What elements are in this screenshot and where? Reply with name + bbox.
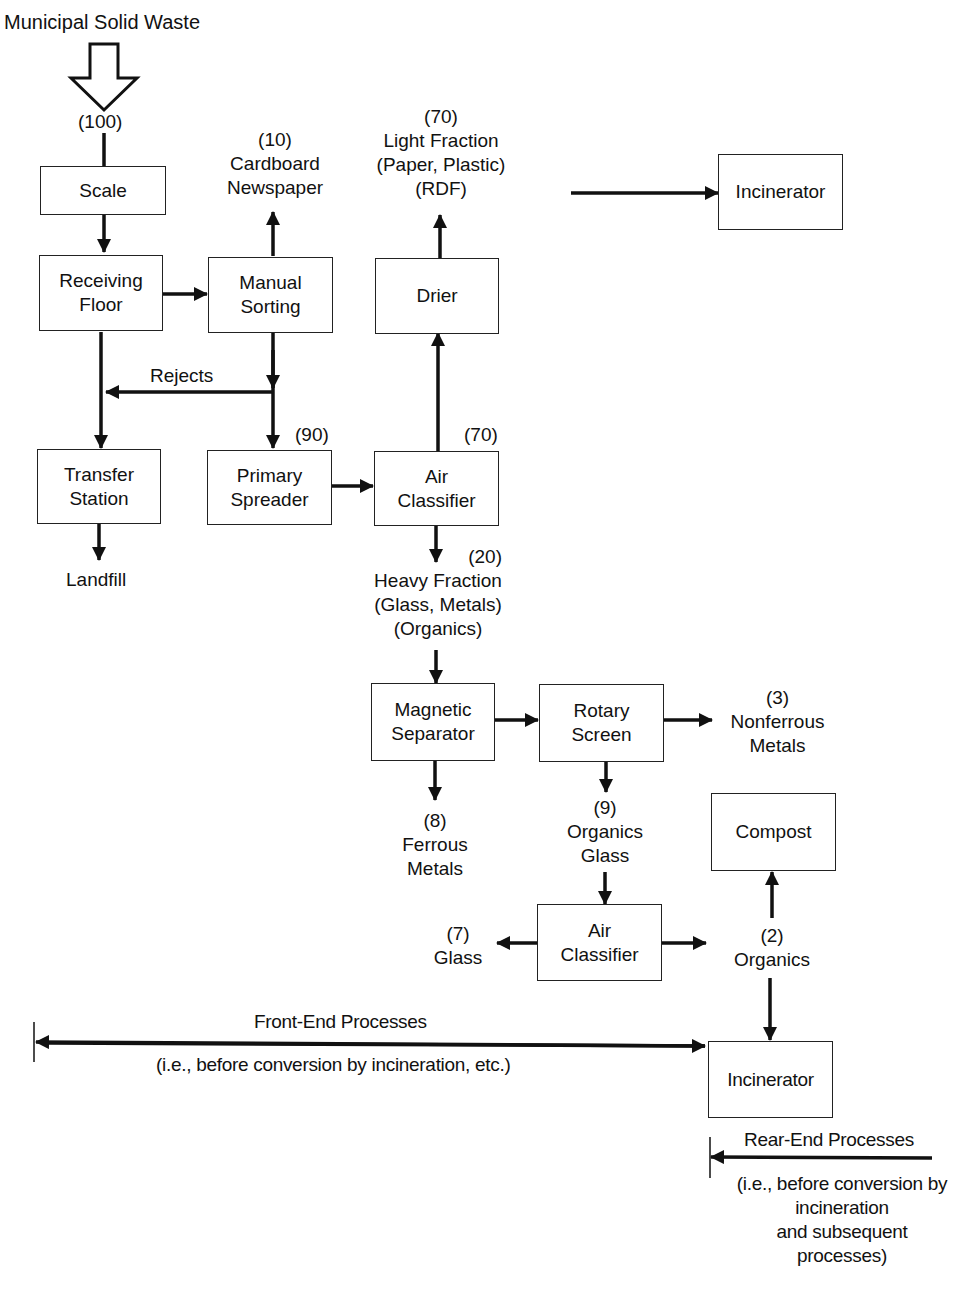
flow-amount: (10) <box>218 128 332 152</box>
rear-end-title: Rear-End Processes <box>744 1128 914 1152</box>
flow-amount: (7) <box>418 922 498 946</box>
node-incinerator-top: Incinerator <box>718 154 843 230</box>
primary-spreader-amount: (90) <box>295 423 329 447</box>
output-cardboard: (10) Cardboard Newspaper <box>218 128 332 200</box>
note-line: processes) <box>717 1244 967 1268</box>
rejects-label: Rejects <box>150 364 213 388</box>
node-manual-sorting: Manual Sorting <box>208 257 333 333</box>
flow-label: Landfill <box>66 568 126 592</box>
flow-amount: (70) <box>464 423 498 447</box>
node-label: Floor <box>79 293 122 317</box>
flow-label: Ferrous <box>385 833 485 857</box>
flow-label: Organics <box>555 820 655 844</box>
output-glass: (7) Glass <box>418 922 498 970</box>
output-organics: (2) Organics <box>722 924 822 972</box>
node-label: Compost <box>735 820 811 844</box>
node-transfer-station: Transfer Station <box>37 449 161 524</box>
node-magnetic-separator: Magnetic Separator <box>371 683 495 761</box>
node-scale: Scale <box>40 166 166 215</box>
flow-label: Nonferrous <box>720 710 835 734</box>
note-line: and subsequent <box>717 1220 967 1244</box>
node-receiving-floor: Receiving Floor <box>39 255 163 331</box>
node-label: Air <box>588 919 611 943</box>
node-primary-spreader: Primary Spreader <box>207 450 332 525</box>
flow-label: Glass <box>418 946 498 970</box>
note-line: (i.e., before conversion by <box>717 1172 967 1196</box>
node-label: Rotary <box>574 699 630 723</box>
flow-label: Metals <box>720 734 835 758</box>
flow-label: Newspaper <box>218 176 332 200</box>
flow-amount: (2) <box>722 924 822 948</box>
output-nonferrous: (3) Nonferrous Metals <box>720 686 835 758</box>
note-line: incineration <box>717 1196 967 1220</box>
flow-label: Organics <box>722 948 822 972</box>
flow-amount: (90) <box>295 423 329 447</box>
flow-amount: (70) <box>366 105 516 129</box>
node-label: Station <box>69 487 128 511</box>
front-end-note: (i.e., before conversion by incineration… <box>156 1053 510 1077</box>
flow-amount: (20) <box>362 545 514 569</box>
node-label: Manual <box>239 271 301 295</box>
flow-label: Cardboard <box>218 152 332 176</box>
node-drier: Drier <box>375 258 499 334</box>
node-label: Screen <box>571 723 631 747</box>
node-label: Magnetic <box>394 698 471 722</box>
node-label: Sorting <box>240 295 300 319</box>
node-rotary-screen: Rotary Screen <box>539 684 664 762</box>
flow-amount: (3) <box>720 686 835 710</box>
node-label: Incinerator <box>727 1068 813 1092</box>
flow-label: (Paper, Plastic) <box>366 153 516 177</box>
node-air-classifier-1: Air Classifier <box>374 451 499 526</box>
flow-label: (Glass, Metals) <box>362 593 514 617</box>
flow-label: Light Fraction <box>366 129 516 153</box>
diagram-title: Municipal Solid Waste <box>4 10 200 34</box>
flow-label: Metals <box>385 857 485 881</box>
node-label: Receiving <box>59 269 142 293</box>
node-incinerator-bottom: Incinerator <box>708 1041 833 1118</box>
front-end-title: Front-End Processes <box>254 1010 427 1034</box>
rear-end-note: (i.e., before conversion by incineration… <box>717 1172 967 1268</box>
input-arrow-icon <box>71 44 137 110</box>
flow-label: Heavy Fraction <box>362 569 514 593</box>
flow-label: (Organics) <box>362 617 514 641</box>
flow-label: (RDF) <box>366 177 516 201</box>
node-label: Spreader <box>230 488 308 512</box>
air-classifier-up-amount: (70) <box>464 423 498 447</box>
node-label: Air <box>425 465 448 489</box>
node-label: Transfer <box>64 463 134 487</box>
output-ferrous: (8) Ferrous Metals <box>385 809 485 881</box>
node-label: Primary <box>237 464 302 488</box>
node-air-classifier-2: Air Classifier <box>537 904 662 981</box>
landfill-label: Landfill <box>66 568 126 592</box>
flow-amount: (8) <box>385 809 485 833</box>
node-label: Incinerator <box>736 180 826 204</box>
node-label: Separator <box>391 722 474 746</box>
node-label: Classifier <box>560 943 638 967</box>
flow-amount: (9) <box>555 796 655 820</box>
node-label: Classifier <box>397 489 475 513</box>
output-light-fraction: (70) Light Fraction (Paper, Plastic) (RD… <box>366 105 516 201</box>
node-label: Scale <box>79 179 127 203</box>
output-organics-glass: (9) Organics Glass <box>555 796 655 868</box>
input-amount-label: (100) <box>78 110 122 134</box>
flow-label: Glass <box>555 844 655 868</box>
output-heavy-fraction: (20) Heavy Fraction (Glass, Metals) (Org… <box>362 545 514 641</box>
node-label: Drier <box>416 284 457 308</box>
flow-label: Rejects <box>150 364 213 388</box>
node-compost: Compost <box>711 793 836 871</box>
